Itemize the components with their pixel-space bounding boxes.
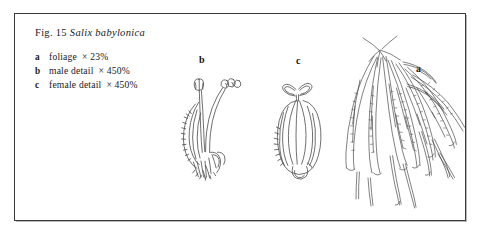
specimen-label-b: b [199, 54, 205, 65]
species-name: Salix babylonica [67, 27, 145, 38]
legend-item-a: a foliage × 23% [35, 50, 210, 64]
legend-key: b [35, 65, 49, 78]
legend-label: male detail [49, 64, 94, 77]
legend-scale: × 23% [77, 50, 108, 63]
legend-label: foliage [49, 50, 77, 63]
female-detail-illustration [267, 72, 337, 192]
legend-scale: × 450% [101, 78, 137, 91]
figure-number: Fig. 15 [35, 27, 67, 38]
foliage-illustration [333, 36, 473, 228]
legend-label: female detail [49, 78, 101, 91]
figure-page: Fig. 15Salix babylonica a foliage × 23% … [0, 0, 485, 234]
plate-frame: Fig. 15Salix babylonica a foliage × 23% … [14, 13, 466, 221]
figure-caption: Fig. 15Salix babylonica [35, 27, 210, 38]
legend-key: a [35, 51, 49, 64]
legend-key: c [35, 79, 49, 92]
legend-scale: × 450% [94, 64, 130, 77]
male-detail-illustration [175, 66, 255, 191]
specimen-label-c: c [296, 55, 300, 66]
